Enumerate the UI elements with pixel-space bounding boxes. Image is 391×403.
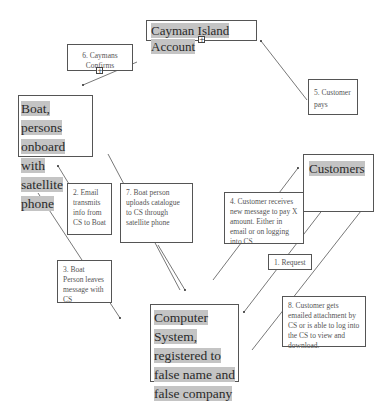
- expand-icon[interactable]: +: [96, 67, 103, 74]
- expand-icon[interactable]: +: [198, 36, 205, 43]
- step-1-request[interactable]: 1. Request: [268, 254, 312, 270]
- node-cayman-label: Cayman Island Account: [151, 23, 229, 54]
- node-customers[interactable]: Customers: [303, 154, 374, 212]
- node-computer-system-label: Computer System, registered to false nam…: [154, 310, 235, 401]
- step-3-boat-leaves-message[interactable]: 3. Boat Person leaves message with CS: [57, 260, 112, 303]
- node-computer-system[interactable]: Computer System, registered to false nam…: [150, 304, 239, 382]
- node-boat-label: Boat, persons onboard with satellite pho…: [21, 101, 65, 211]
- node-boat[interactable]: Boat, persons onboard with satellite pho…: [18, 95, 93, 157]
- step-4-customer-receives-message[interactable]: 4. Customer receives new message to pay …: [224, 192, 304, 244]
- step-2-email-transmits[interactable]: 2. Email transmits info from CS to Boat: [67, 183, 112, 235]
- step-5-customer-pays[interactable]: 5. Customer pays: [308, 79, 358, 115]
- node-customers-label: Customers: [309, 161, 365, 176]
- step-7-boat-uploads-catalogue[interactable]: 7. Boat person uploads catalogue to CS t…: [120, 183, 193, 243]
- step-8-customer-gets-attachment[interactable]: 8. Customer gets emailed attachment by C…: [282, 296, 366, 347]
